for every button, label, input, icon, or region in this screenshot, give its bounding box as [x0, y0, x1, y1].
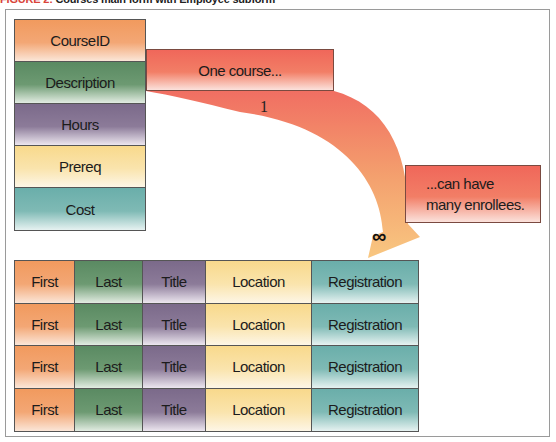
cell-location[interactable]: Location — [206, 261, 312, 303]
cell-title[interactable]: Title — [143, 261, 206, 303]
one-course-text: One course... — [198, 62, 282, 79]
table-row: First Last Title Location Registration — [15, 261, 418, 304]
cell-first[interactable]: First — [15, 261, 75, 303]
cell-registration[interactable]: Registration — [312, 304, 418, 346]
many-enrollees-line2: many enrollees. — [426, 194, 540, 215]
cell-first[interactable]: First — [15, 389, 75, 432]
enrollee-table: First Last Title Location Registration F… — [14, 260, 419, 432]
cell-registration[interactable]: Registration — [312, 389, 418, 432]
table-row: First Last Title Location Registration — [15, 346, 418, 389]
cell-registration[interactable]: Registration — [312, 346, 418, 388]
field-courseid[interactable]: CourseID — [15, 20, 145, 62]
cell-title[interactable]: Title — [143, 304, 206, 346]
cell-location[interactable]: Location — [206, 304, 312, 346]
many-enrollees-line1: ...can have — [426, 173, 540, 194]
cell-title[interactable]: Title — [143, 346, 206, 388]
many-enrollees-banner: ...can have many enrollees. — [405, 165, 541, 223]
field-description[interactable]: Description — [15, 62, 145, 104]
cell-last[interactable]: Last — [75, 304, 143, 346]
field-hours[interactable]: Hours — [15, 104, 145, 146]
cell-location[interactable]: Location — [206, 346, 312, 388]
one-course-banner: One course... — [146, 49, 334, 91]
one-cardinality-label: 1 — [260, 98, 268, 116]
table-row: First Last Title Location Registration — [15, 304, 418, 347]
course-table: CourseID Description Hours Prereq Cost — [14, 19, 146, 231]
cell-first[interactable]: First — [15, 346, 75, 388]
cell-last[interactable]: Last — [75, 346, 143, 388]
cell-location[interactable]: Location — [206, 389, 312, 432]
table-row: First Last Title Location Registration — [15, 389, 418, 432]
cell-last[interactable]: Last — [75, 389, 143, 432]
cell-last[interactable]: Last — [75, 261, 143, 303]
cell-first[interactable]: First — [15, 304, 75, 346]
field-prereq[interactable]: Prereq — [15, 146, 145, 188]
cell-registration[interactable]: Registration — [312, 261, 418, 303]
cell-title[interactable]: Title — [143, 389, 206, 432]
field-cost[interactable]: Cost — [15, 188, 145, 230]
infinity-icon: ∞ — [372, 226, 386, 246]
